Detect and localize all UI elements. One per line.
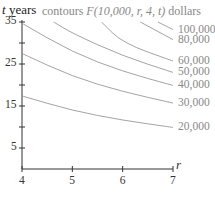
contour-label: 30,000	[178, 96, 210, 108]
y-tick-label: 25	[5, 56, 17, 68]
y-tick-label: 35	[5, 14, 17, 26]
x-tick-label: 6	[120, 174, 126, 186]
x-axis-label: r	[176, 157, 181, 173]
chart-title: contours F(10,000, r, 4, t) dollars	[42, 4, 201, 19]
y-tick-label: 15	[5, 98, 17, 110]
title-function: F(10,000, r, 4, t)	[86, 4, 165, 18]
x-tick-label: 5	[69, 174, 75, 186]
contour-60000	[102, 22, 173, 61]
title-prefix: contours	[42, 4, 86, 18]
contour-20000	[22, 96, 173, 128]
contour-label: 60,000	[178, 54, 210, 66]
contour-label: 100,000	[178, 23, 215, 35]
contour-100000	[158, 22, 173, 30]
axes	[22, 20, 173, 169]
title-suffix: dollars	[165, 4, 201, 18]
contour-label: 50,000	[178, 65, 210, 77]
x-tick-label: 4	[19, 174, 25, 186]
contour-curves	[22, 22, 173, 127]
contour-40000	[22, 23, 173, 85]
contour-label: 20,000	[178, 120, 210, 132]
contour-30000	[22, 54, 173, 104]
y-tick-label: 5	[11, 140, 17, 152]
contour-label: 40,000	[178, 78, 210, 90]
contour-80000	[140, 22, 173, 40]
x-tick-label: 7	[170, 174, 176, 186]
